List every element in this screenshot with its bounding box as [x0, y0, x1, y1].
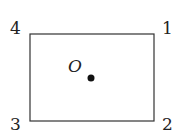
corner-label-1: 1	[162, 20, 173, 37]
corner-label-2: 2	[162, 116, 173, 133]
rectangle-drawing	[0, 0, 184, 139]
center-point	[88, 75, 95, 82]
corner-label-4: 4	[10, 20, 21, 37]
rectangle-diagram: 4 1 3 2 O	[0, 0, 184, 139]
corner-label-3: 3	[10, 116, 21, 133]
center-label: O	[68, 58, 82, 75]
